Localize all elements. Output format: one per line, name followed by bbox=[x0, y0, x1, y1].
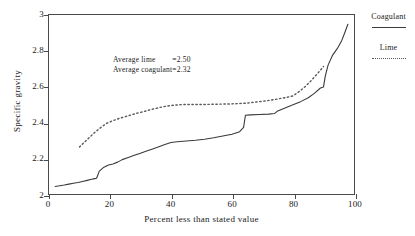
x-axis-title: Percent less than stated value bbox=[48, 214, 355, 224]
annotation-value-lime: 2.50 bbox=[177, 55, 191, 65]
y-axis-tick bbox=[44, 124, 49, 125]
y-axis-tick-label: 2.4 bbox=[32, 118, 44, 127]
annotation-row-coagulant: Average coagulant = 2.32 bbox=[113, 65, 191, 75]
legend-label-lime: Lime bbox=[362, 43, 415, 53]
y-axis-tick-label: 2.6 bbox=[32, 82, 44, 91]
x-axis-tick-label: 100 bbox=[348, 200, 362, 209]
legend-entry-coagulant: Coagulant bbox=[362, 12, 415, 30]
series-line-coagulant bbox=[55, 24, 348, 186]
legend-label-coagulant: Coagulant bbox=[362, 12, 415, 22]
x-axis-tick-label: 80 bbox=[289, 200, 298, 209]
y-axis-tick bbox=[44, 87, 49, 88]
y-axis-tick-label: 2.8 bbox=[32, 46, 44, 55]
annotation-table: Average lime = 2.50 Average coagulant = … bbox=[113, 55, 191, 75]
x-axis-tick-label: 60 bbox=[227, 200, 236, 209]
annotation-value-coagulant: 2.32 bbox=[177, 65, 191, 75]
x-axis-tick-label: 40 bbox=[166, 200, 175, 209]
y-axis-tick bbox=[44, 160, 49, 161]
y-axis-tick bbox=[44, 15, 49, 16]
y-axis-title: Specific gravity bbox=[12, 46, 22, 156]
y-axis-tick bbox=[44, 51, 49, 52]
legend-swatch-coagulant bbox=[372, 27, 406, 30]
plot-area: Average lime = 2.50 Average coagulant = … bbox=[48, 14, 355, 195]
annotation-label-lime: Average lime bbox=[113, 55, 172, 65]
x-axis-tick-labels: 020406080100 bbox=[0, 200, 415, 212]
chart-figure: 22.22.42.62.83 Average lime = 2.50 Avera… bbox=[0, 0, 415, 236]
annotation-label-coagulant: Average coagulant bbox=[113, 65, 172, 75]
legend-swatch-lime bbox=[372, 58, 406, 61]
series-canvas bbox=[49, 15, 354, 194]
chart-legend: Coagulant Lime bbox=[362, 12, 415, 74]
annotation-row-lime: Average lime = 2.50 bbox=[113, 55, 191, 65]
x-axis-tick-label: 0 bbox=[46, 200, 51, 209]
y-axis-tick-label: 3 bbox=[39, 10, 44, 19]
legend-entry-lime: Lime bbox=[362, 43, 415, 61]
y-axis-tick-label: 2 bbox=[39, 191, 44, 200]
y-axis-tick-label: 2.2 bbox=[32, 154, 44, 163]
average-annotations: Average lime = 2.50 Average coagulant = … bbox=[113, 55, 191, 75]
x-axis-tick-label: 20 bbox=[105, 200, 114, 209]
